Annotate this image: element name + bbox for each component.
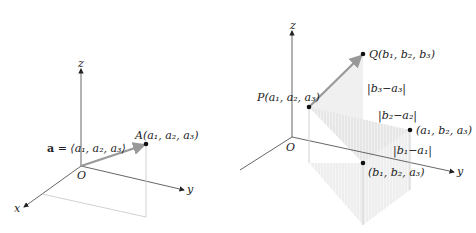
- point-A-label: A(a₁, a₂, a₃): [135, 130, 198, 141]
- right-y-label: y: [457, 166, 463, 177]
- x-axis: [240, 137, 292, 170]
- left-z-label: z: [78, 58, 84, 69]
- diff2-label: |b₂−a₂|: [378, 110, 417, 121]
- left-origin-label: O: [77, 170, 86, 181]
- point-P: [307, 105, 312, 110]
- right-origin-label: O: [286, 142, 295, 153]
- diff3-label: |b₃−a₃|: [367, 83, 406, 94]
- guide-line-floor: [42, 194, 146, 217]
- mid-point-label: (a₁, b₂, a₃): [416, 125, 472, 136]
- vector-diagram: z y x O a = ⟨a₁, a₂, a₃⟩ A(a₁, a₂, a₃) z…: [0, 0, 476, 233]
- point-a1b2a3: [408, 128, 413, 133]
- right-z-label: z: [290, 20, 296, 31]
- point-Q-label: Q(b₁, b₂, b₃): [369, 49, 435, 60]
- point-P-label: P(a₁, a₂, a₃): [257, 92, 320, 103]
- diff1-label: |b₁−a₁|: [393, 145, 432, 156]
- left-x-label: x: [14, 203, 20, 214]
- vector-a-components: = ⟨a₁, a₂, a₃⟩: [54, 142, 126, 155]
- vector-a-label: a = ⟨a₁, a₂, a₃⟩: [47, 143, 126, 154]
- y-axis: [81, 166, 184, 190]
- left-y-label: y: [187, 184, 193, 195]
- foot-point-label: (b₁, b₂, a₃): [368, 167, 424, 178]
- point-Q: [361, 52, 366, 57]
- point-b1b2a3: [361, 161, 366, 166]
- point-A: [144, 142, 149, 147]
